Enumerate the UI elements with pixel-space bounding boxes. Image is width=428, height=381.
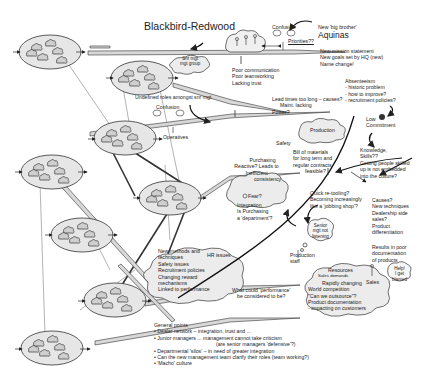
snr-mgt-line-2: mgt group [180,61,200,66]
help-line-3: blamed [392,277,407,282]
snr-mgt-group-label: Snr mgt mgt group [180,56,200,66]
knowledge-label: Knowledge, Skills?? Getting people skill… [360,147,410,179]
operatives-label: Operatives [163,134,188,140]
ellipse-node-5 [139,181,201,215]
senior-line-3: listening [312,234,329,239]
ellipse-node-7 [84,283,146,317]
priorities-label: Priorities?? [288,38,314,44]
retooling-label: Quick re-tooling? Becoming increasingly … [310,190,362,209]
ellipse-node-3 [94,121,156,155]
bom-line-2: for long term and [293,155,332,161]
absenteeism-label: Absenteeism - historic problem - how to … [345,78,396,104]
pstaff-line-2: staff [290,258,315,264]
retool-line-2: Becoming increasingly [310,196,362,202]
lead-times-label: Lead times too long – causes? Maint. lac… [272,96,342,115]
ellipse-node-6 [51,218,113,252]
ellipse-node-8 [21,331,83,365]
integ-line-3: a 'department'? [237,215,272,221]
causes-line-2: New techniques [372,203,409,209]
general-point-6: • 'Macho' culture [154,360,309,366]
lead-line-3: Power? [272,109,342,115]
ellipse-node-2 [111,61,173,95]
ellipse-node-1 [19,35,81,69]
purch-line-2: Reactive? Leads to [232,163,281,169]
sales-cloud-label: Resources Sales demands Rapidly changing… [308,267,366,312]
hr-issues-title: HR issues [207,252,231,258]
org-line-2: Aquinas [318,30,357,40]
diagram-title: Blackbird-Redwood [144,20,235,32]
safety-label: Safety [276,140,291,146]
commitment-label: Low Commitment [366,116,395,129]
confusion-mid-label: Confusion [156,104,179,110]
confusion-top-label: Confusion [272,24,295,30]
purch-line-4: consistency [232,176,281,182]
hr-methods-label: New methods and techniques Safety issues… [158,248,210,293]
mission-label: New mission statement New goals set by H… [320,48,383,67]
causes-label: Causes? New techniques Dealership side s… [372,197,409,235]
abs-line-4: - recruitment policies? [345,97,396,103]
mission-line-2: New goals set by HQ (new) [320,54,383,60]
results-line-3: of products [372,257,407,263]
help-label: Help! I get blamed [392,266,407,282]
results-line-2: documentation [372,250,407,256]
new-big-brother-label: New 'big brother' Aquinas [318,24,357,40]
comm-line-3: Lacking trust [232,80,279,86]
ellipse-node-4 [21,155,83,189]
hr-line-7: Linked to performance [158,286,210,292]
production-label: Production [310,127,335,133]
undefined-roles-label: Undefined roles amongst snr mgt [135,94,211,100]
mission-line-3: Name change! [320,61,383,67]
purchasing-label: Purchasing Reactive? Leads to Inefficien… [232,157,281,183]
bom-line-4: feasible? [293,168,332,174]
perf-line-2: be considered to be? [232,293,291,299]
cloud-people-top [226,30,266,52]
comm-line-2: Poor teamworking [232,73,279,79]
retool-line-3: like a 'jobbing shop'? [310,203,362,209]
know-line-4: up is not embedded [360,166,410,172]
integration-label: Integration Is Purchasing a 'department'… [237,202,272,221]
production-staff-label: Production staff [290,252,315,265]
commit-line-2: Commitment [366,122,395,128]
integ-line-2: Is Purchasing [237,208,272,214]
causes-line-6: differentiation [372,229,409,235]
results-poor-label: Results in poor documentation of product… [372,244,407,263]
general-points: General points • Dealer network – integr… [154,322,309,367]
senior-mgt-label: Senior mgt not listening [312,223,329,239]
know-line-5: into the culture? [360,173,410,179]
sales-line-7: - impacting on customers [308,305,366,311]
communication-label: Poor communication Poor teamworking Lack… [232,67,279,86]
bill-of-materials-label: Bill of materials for long term and regu… [293,149,332,175]
performance-question-label: What could 'performance' be considered t… [232,287,291,300]
fear-label: Fear? [248,193,262,199]
hr-line-4: Recruitment policies [158,267,210,273]
sales-label: Sales [366,279,379,285]
